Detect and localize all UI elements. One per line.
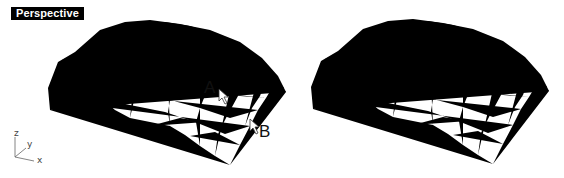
axis-label-x: x (37, 155, 42, 165)
callout-label-b: B (259, 122, 270, 142)
viewport-canvas[interactable] (0, 0, 564, 178)
mesh-wireframe-after[interactable] (311, 19, 549, 164)
mesh-wireframe-before[interactable] (48, 20, 286, 165)
axis-label-y: y (27, 139, 32, 149)
axis-label-z: z (14, 128, 19, 138)
callout-label-a: A (204, 78, 215, 98)
